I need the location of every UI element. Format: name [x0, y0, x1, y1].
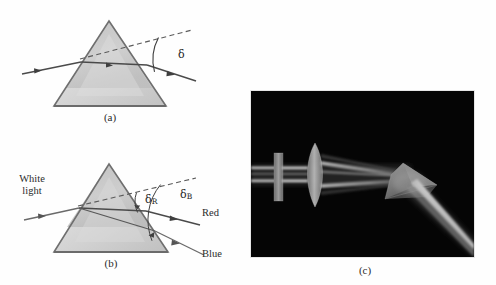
red-ray-label: Red [202, 207, 219, 219]
figure-prism-dispersion: δ (a) [0, 0, 496, 285]
incident-ray-a [22, 62, 81, 74]
delta-r-subscript: R [152, 197, 158, 206]
beam-plate-to-lens [282, 167, 308, 183]
photo-content [251, 91, 474, 257]
panel-a: δ (a) [0, 0, 240, 130]
slit-plate [274, 153, 283, 201]
deviation-arc-a [153, 38, 159, 72]
panel-b-caption: (b) [85, 257, 137, 269]
panel-b: White light δR δB Red Blue (b) [0, 143, 248, 285]
panel-a-caption: (a) [85, 111, 135, 123]
panel-c-caption: (c) [340, 264, 390, 276]
incident-beam [251, 167, 275, 183]
emergent-ray-a [147, 65, 196, 81]
deviation-angle-red-label: δR [145, 193, 157, 206]
delta-b-glyph: δ [180, 188, 187, 201]
deviation-angle-label-a: δ [178, 48, 185, 61]
incident-ray-b [24, 208, 79, 220]
white-light-label-line1: White [8, 173, 56, 185]
white-light-label: White light [8, 173, 56, 197]
white-light-label-line2: light [8, 185, 56, 197]
deviation-angle-blue-label: δB [180, 188, 192, 201]
delta-r-glyph: δ [145, 193, 152, 206]
emergent-ray-red-b [146, 211, 200, 225]
delta-b-subscript: B [187, 192, 193, 201]
panel-c-photograph [250, 90, 475, 258]
blue-ray-label: Blue [202, 248, 222, 260]
prism-scatter-glow [393, 172, 425, 194]
